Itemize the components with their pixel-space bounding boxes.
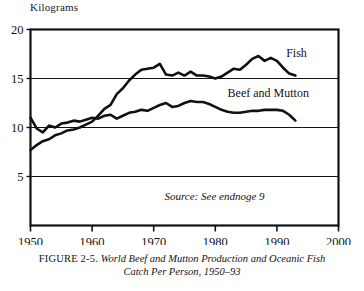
chart-plot-area: 1950196019701980199020005101520FishBeef … (0, 20, 364, 245)
y-tick-label-10: 10 (11, 121, 24, 135)
y-tick-label-20: 20 (11, 23, 24, 37)
y-axis-title: Kilograms (30, 1, 78, 13)
x-tick-label-2000: 2000 (326, 235, 351, 246)
figure-2-5: Kilograms 195019601970198019902000510152… (0, 0, 364, 291)
x-tick-label-1960: 1960 (80, 235, 105, 246)
series-label-beef-and-mutton: Beef and Mutton (228, 86, 309, 100)
line-chart: 1950196019701980199020005101520FishBeef … (0, 20, 364, 245)
series-label-fish: Fish (286, 46, 307, 60)
figure-caption-line-1: World Beef and Mutton Production and Oce… (101, 253, 326, 264)
figure-number: FIGURE 2-5. (39, 253, 98, 264)
x-tick-label-1970: 1970 (141, 235, 166, 246)
y-tick-label-15: 15 (11, 72, 24, 86)
x-tick-label-1980: 1980 (203, 235, 228, 246)
x-tick-label-1950: 1950 (18, 235, 43, 246)
figure-caption: FIGURE 2-5. World Beef and Mutton Produc… (0, 252, 364, 278)
x-tick-label-1990: 1990 (264, 235, 289, 246)
y-tick-label-5: 5 (17, 170, 23, 184)
source-note: Source: See endnoge 9 (164, 190, 265, 202)
figure-caption-line-2: Catch Per Person, 1950–93 (0, 265, 364, 278)
